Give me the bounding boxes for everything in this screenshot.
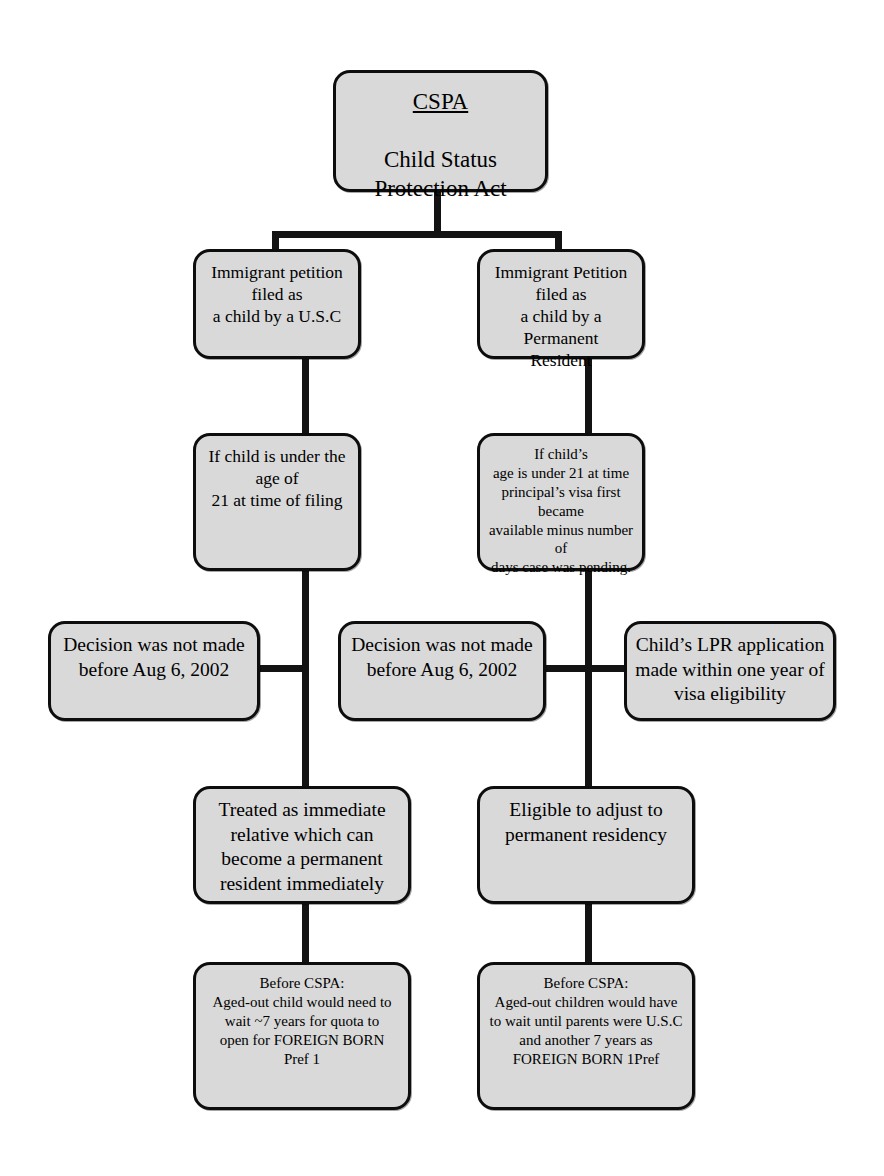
node-usc-petition-text: Immigrant petition filed as a child by a… <box>204 261 350 327</box>
node-cspa-root-heading: CSPA <box>344 88 537 117</box>
connector-right-outcome-to-before <box>585 902 592 964</box>
connector-lpr-application-stub <box>589 665 625 672</box>
node-usc-decision-date[interactable]: Decision was not made before Aug 6, 2002 <box>48 621 260 721</box>
node-lpr-age-test-text: If child’s age is under 21 at time princ… <box>488 445 634 577</box>
node-lpr-application-window[interactable]: Child’s LPR application made within one … <box>624 621 836 721</box>
connector-right-agetest-to-outcome <box>585 569 592 788</box>
node-usc-outcome[interactable]: Treated as immediate relative which can … <box>193 786 411 904</box>
node-cspa-root[interactable]: CSPA Child Status Protection Act <box>333 70 548 192</box>
node-lpr-before-cspa-text: Before CSPA: Aged-out children would hav… <box>488 974 684 1068</box>
node-lpr-decision-date[interactable]: Decision was not made before Aug 6, 2002 <box>338 621 546 721</box>
flowchart-canvas: CSPA Child Status Protection Act Immigra… <box>0 0 884 1176</box>
node-lpr-age-test[interactable]: If child’s age is under 21 at time princ… <box>477 433 645 571</box>
node-lpr-petition[interactable]: Immigrant Petition filed as a child by a… <box>477 249 645 359</box>
node-usc-petition[interactable]: Immigrant petition filed as a child by a… <box>193 249 361 359</box>
node-lpr-application-window-text: Child’s LPR application made within one … <box>635 633 825 707</box>
node-cspa-root-body: Child Status Protection Act <box>374 147 506 201</box>
node-usc-before-cspa[interactable]: Before CSPA: Aged-out child would need t… <box>193 962 411 1110</box>
connector-usc-decision-stub <box>258 665 306 672</box>
node-cspa-root-text: CSPA Child Status Protection Act <box>344 59 537 204</box>
node-lpr-decision-date-text: Decision was not made before Aug 6, 2002 <box>349 633 535 682</box>
connector-left-agetest-to-outcome <box>302 569 309 788</box>
node-usc-outcome-text: Treated as immediate relative which can … <box>204 798 400 896</box>
node-usc-age-test-text: If child is under the age of 21 at time … <box>204 445 350 511</box>
connector-lpr-decision-stub <box>543 665 589 672</box>
node-usc-age-test[interactable]: If child is under the age of 21 at time … <box>193 433 361 571</box>
node-lpr-outcome[interactable]: Eligible to adjust to permanent residenc… <box>477 786 695 904</box>
node-usc-decision-date-text: Decision was not made before Aug 6, 2002 <box>59 633 249 682</box>
connector-left-petition-to-agetest <box>302 357 309 435</box>
node-lpr-petition-text: Immigrant Petition filed as a child by a… <box>488 261 634 371</box>
connector-left-outcome-to-before <box>302 902 309 964</box>
node-lpr-before-cspa[interactable]: Before CSPA: Aged-out children would hav… <box>477 962 695 1110</box>
connector-split-bar <box>272 231 562 238</box>
node-lpr-outcome-text: Eligible to adjust to permanent residenc… <box>488 798 684 847</box>
node-usc-before-cspa-text: Before CSPA: Aged-out child would need t… <box>204 974 400 1068</box>
